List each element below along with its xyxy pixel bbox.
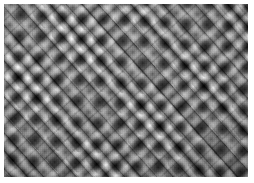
- fabric-swatch-image: [4, 4, 248, 177]
- vignette-layer: [4, 4, 248, 177]
- photo-frame: [0, 0, 254, 183]
